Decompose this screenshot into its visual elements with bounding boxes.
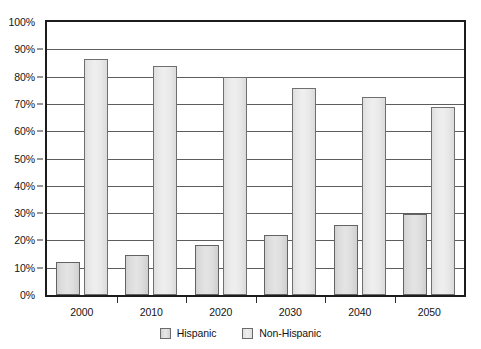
y-tick-label: 20% [14, 234, 35, 246]
x-tick-label-2030: 2030 [279, 306, 302, 318]
bar-non-hispanic-2040 [362, 97, 386, 295]
y-tick-mark [37, 49, 43, 50]
y-tick-label: 80% [14, 71, 35, 83]
y-axis: 0%10%20%30%40%50%60%70%80%90%100% [0, 20, 43, 297]
bar-hispanic-2020 [195, 245, 219, 296]
plot-area [45, 20, 466, 297]
y-tick-label: 100% [9, 16, 35, 28]
bar-non-hispanic-2000 [84, 59, 108, 295]
x-tick-label-2040: 2040 [348, 306, 371, 318]
y-tick-mark [37, 103, 43, 104]
bar-non-hispanic-2030 [292, 88, 316, 295]
y-tick-label: 30% [14, 207, 35, 219]
y-tick-mark [37, 240, 43, 241]
y-tick-mark [37, 158, 43, 159]
y-tick-mark [37, 267, 43, 268]
legend-swatch-icon [242, 328, 253, 339]
x-tick-mark [117, 297, 118, 303]
y-tick-label: 70% [14, 98, 35, 110]
legend-label: Non-Hispanic [259, 327, 321, 339]
y-tick-mark [37, 213, 43, 214]
y-tick-label: 10% [14, 262, 35, 274]
y-tick-mark [37, 185, 43, 186]
bar-chart: 0%10%20%30%40%50%60%70%80%90%100% 200020… [0, 0, 481, 349]
legend-item-non-hispanic[interactable]: Non-Hispanic [242, 327, 321, 339]
bar-non-hispanic-2020 [223, 77, 247, 295]
legend-label: Hispanic [177, 327, 216, 339]
y-tick-mark [37, 76, 43, 77]
x-tick-mark [256, 297, 257, 303]
y-tick-label: 90% [14, 43, 35, 55]
y-tick-label: 0% [20, 289, 35, 301]
x-tick-label-2020: 2020 [209, 306, 232, 318]
x-tick-mark [186, 297, 187, 303]
legend-swatch-icon [160, 328, 171, 339]
bar-non-hispanic-2050 [431, 107, 455, 295]
chart-legend: HispanicNon-Hispanic [0, 327, 481, 339]
bars-layer [47, 22, 464, 295]
bar-hispanic-2030 [264, 235, 288, 295]
x-tick-mark [325, 297, 326, 303]
bar-non-hispanic-2010 [153, 66, 177, 295]
x-tick-label-2000: 2000 [70, 306, 93, 318]
bar-hispanic-2000 [56, 262, 80, 295]
legend-item-hispanic[interactable]: Hispanic [160, 327, 216, 339]
y-tick-label: 40% [14, 180, 35, 192]
bar-hispanic-2040 [334, 225, 358, 295]
x-axis: 200020102020203020402050 [45, 297, 466, 323]
x-tick-mark [395, 297, 396, 303]
x-tick-label-2010: 2010 [140, 306, 163, 318]
bar-hispanic-2010 [125, 255, 149, 295]
bar-hispanic-2050 [403, 214, 427, 295]
y-tick-mark [37, 131, 43, 132]
y-tick-label: 50% [14, 153, 35, 165]
y-tick-label: 60% [14, 125, 35, 137]
x-tick-label-2050: 2050 [418, 306, 441, 318]
